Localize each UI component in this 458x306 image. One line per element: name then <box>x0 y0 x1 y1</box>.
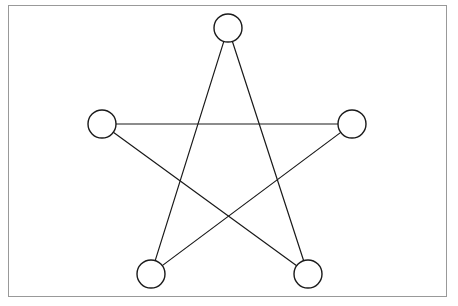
node-right <box>338 110 366 138</box>
node-bottom-left <box>137 260 165 288</box>
edge-left-bottom-right <box>113 132 296 266</box>
node-layer <box>88 14 366 288</box>
node-top <box>214 14 242 42</box>
node-bottom-right <box>294 260 322 288</box>
pentagram-diagram <box>0 0 458 306</box>
figure-canvas <box>0 0 458 306</box>
edge-top-bottom-right <box>232 41 303 260</box>
node-left <box>88 110 116 138</box>
edge-layer <box>113 41 340 265</box>
